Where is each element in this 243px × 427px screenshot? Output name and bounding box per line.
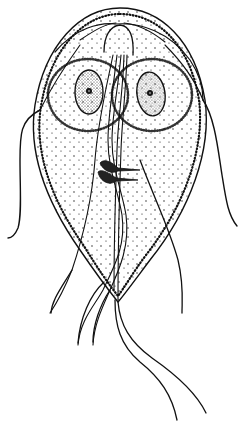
protozoan-drawing bbox=[0, 0, 243, 427]
illustration-canvas bbox=[0, 0, 243, 427]
body bbox=[33, 8, 206, 302]
ventral-flagella bbox=[78, 282, 110, 343]
left-nucleus bbox=[75, 70, 103, 114]
caudal-flagella bbox=[115, 300, 206, 420]
